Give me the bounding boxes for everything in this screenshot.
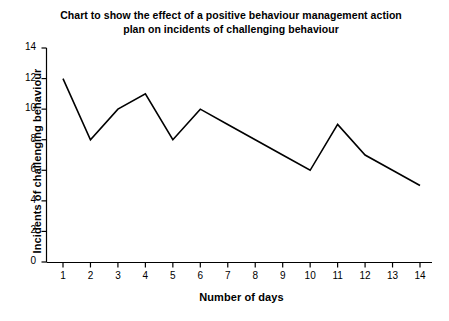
- x-axis-tick-label: 5: [162, 270, 184, 281]
- y-axis-tick-label: 14: [16, 41, 36, 52]
- x-axis-tick-label: 4: [134, 270, 156, 281]
- x-axis-tick-label: 7: [217, 270, 239, 281]
- x-axis-tick-label: 8: [244, 270, 266, 281]
- data-series-line: [63, 79, 420, 186]
- x-axis-tick-label: 13: [382, 270, 404, 281]
- x-axis-tick-label: 11: [327, 270, 349, 281]
- line-chart: Chart to show the effect of a positive b…: [0, 0, 449, 321]
- axes: [47, 48, 433, 263]
- y-axis-tick-label: 4: [16, 194, 36, 205]
- x-axis-tick-label: 10: [299, 270, 321, 281]
- x-axis-tick-label: 3: [107, 270, 129, 281]
- x-axis-tick-label: 9: [272, 270, 294, 281]
- x-axis-ticks: [63, 263, 420, 268]
- x-axis-tick-label: 1: [52, 270, 74, 281]
- x-axis-tick-label: 14: [409, 270, 431, 281]
- y-axis-tick-label: 6: [16, 163, 36, 174]
- y-axis-tick-label: 8: [16, 133, 36, 144]
- x-axis-tick-label: 12: [354, 270, 376, 281]
- y-axis-tick-label: 12: [16, 72, 36, 83]
- y-axis-ticks: [42, 48, 47, 262]
- y-axis-tick-label: 0: [16, 255, 36, 266]
- x-axis-tick-label: 2: [79, 270, 101, 281]
- y-axis-tick-label: 10: [16, 102, 36, 113]
- x-axis-tick-label: 6: [189, 270, 211, 281]
- y-axis-tick-label: 2: [16, 224, 36, 235]
